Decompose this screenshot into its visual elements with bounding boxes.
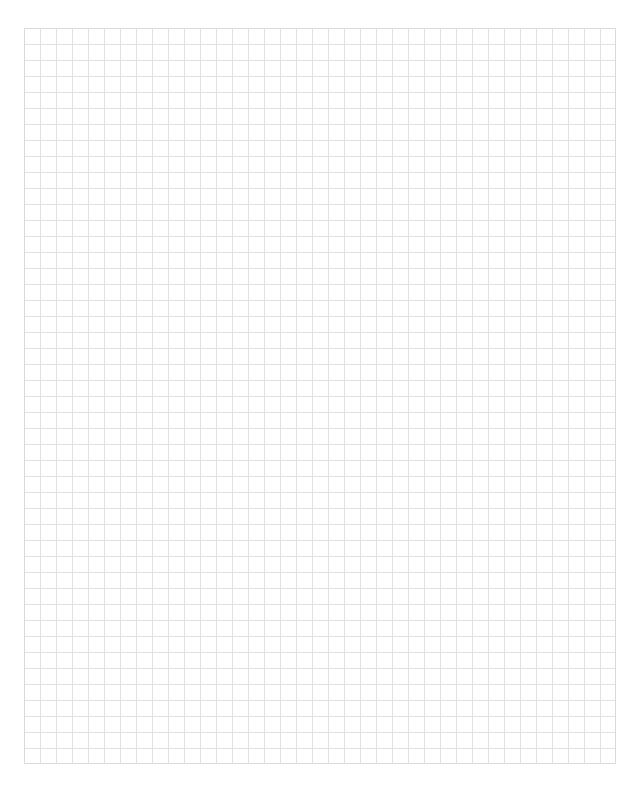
page [0,0,639,786]
graph-paper-grid [24,28,616,764]
